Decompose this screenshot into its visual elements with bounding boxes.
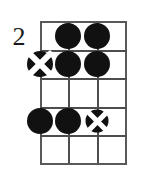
fretboard-grid — [40, 21, 127, 165]
string-line-4 — [125, 21, 127, 165]
fret-line-2 — [40, 78, 127, 80]
string-line-1 — [40, 21, 42, 165]
marker-fret4-string3 — [86, 110, 109, 133]
fretboard-frame — [40, 21, 127, 165]
fret-line-3 — [40, 107, 127, 109]
marker-fret4-string2 — [55, 108, 81, 134]
fret-position-label: 2 — [6, 22, 32, 52]
marker-fret1-string2 — [55, 23, 81, 49]
marker-fret2-string1 — [27, 51, 53, 77]
marker-fret2-string3 — [84, 51, 110, 77]
marker-fret4-string1 — [27, 108, 53, 134]
fret-line-1 — [40, 50, 127, 52]
marker-fret2-string2 — [55, 51, 81, 77]
chord-diagram: 2 — [0, 0, 147, 173]
marker-fret1-string3 — [84, 23, 110, 49]
fret-line-4 — [40, 135, 127, 137]
fret-line-bottom — [40, 163, 127, 165]
fret-line-nut — [40, 21, 127, 23]
